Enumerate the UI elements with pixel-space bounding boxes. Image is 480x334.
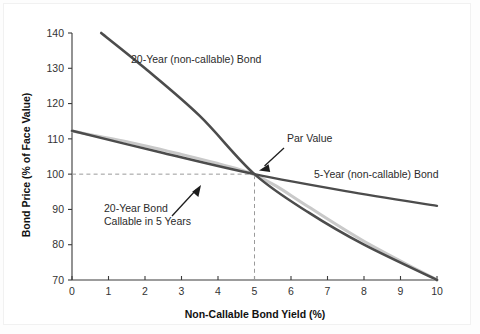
chart-svg: 708090100110120130140 012345678910 20-Ye… <box>0 0 480 334</box>
y-tick-label-100: 100 <box>46 168 64 180</box>
x-tick-label-10: 10 <box>431 285 443 297</box>
annotation-texts: 20-Year (non-callable) Bond 5-Year (non-… <box>104 53 439 227</box>
par-value-guides <box>72 174 255 280</box>
x-tick-label-5: 5 <box>252 285 258 297</box>
callable-note-arrow-head <box>192 185 201 197</box>
y-tick-label-130: 130 <box>46 62 64 74</box>
chart-plot-area: 708090100110120130140 012345678910 20-Ye… <box>0 0 480 334</box>
series-label-20y: 20-Year (non-callable) Bond <box>131 53 262 65</box>
y-tick-label-70: 70 <box>52 274 64 286</box>
series-label-5y: 5-Year (non-callable) Bond <box>314 168 439 180</box>
par-value-label: Par Value <box>287 132 332 144</box>
callable-note-leader-line <box>172 190 196 216</box>
x-tick-label-8: 8 <box>361 285 367 297</box>
y-tick-label-90: 90 <box>52 203 64 215</box>
callable-note-line1: 20-Year Bond <box>104 202 168 214</box>
x-tick-label-4: 4 <box>215 285 221 297</box>
y-tick-label-140: 140 <box>46 27 64 39</box>
x-axis-title: Non-Callable Bond Yield (%) <box>185 308 326 320</box>
callable-note-line2: Callable in 5 Years <box>104 215 191 227</box>
x-tick-label-3: 3 <box>179 285 185 297</box>
y-tick-label-110: 110 <box>47 133 64 145</box>
y-tick-label-120: 120 <box>46 97 64 109</box>
series-line-20y-noncallable <box>101 33 437 280</box>
x-tick-label-7: 7 <box>325 285 331 297</box>
x-tick-label-9: 9 <box>398 285 404 297</box>
y-tick-label-80: 80 <box>52 238 64 250</box>
par-value-leader-line <box>265 148 285 166</box>
y-axis-title: Bond Price (% of Face Value) <box>20 93 32 238</box>
x-tick-label-2: 2 <box>142 285 148 297</box>
chart-figure: 708090100110120130140 012345678910 20-Ye… <box>0 0 480 334</box>
y-axis-ticks: 708090100110120130140 <box>46 27 72 286</box>
x-tick-label-6: 6 <box>288 285 294 297</box>
x-axis-ticks: 012345678910 <box>69 276 443 297</box>
x-tick-label-1: 1 <box>106 285 112 297</box>
x-tick-label-0: 0 <box>69 285 75 297</box>
